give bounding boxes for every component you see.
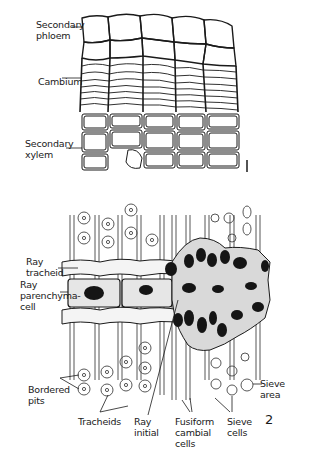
- label-cambium: Cambium: [38, 76, 82, 87]
- label-sieve-cells: Sieve cells: [227, 416, 252, 438]
- figure-2-number: 2: [265, 412, 273, 427]
- label-bordered-pits: Bordered pits: [28, 384, 70, 406]
- label-tracheids: Tracheids: [78, 416, 121, 427]
- label-secondary-phloem: Secondary phloem: [36, 19, 85, 41]
- label-secondary-xylem: Secondary xylem: [25, 138, 74, 160]
- label-ray-initial: Ray initial: [134, 416, 159, 438]
- label-ray-parenchyma-cell: Ray parenchyma- cell: [20, 279, 81, 312]
- label-sieve-area: Sieve area: [260, 378, 285, 400]
- label-fusiform-cambial-cells: Fusiform cambial cells: [175, 416, 214, 449]
- label-ray-tracheid: Ray tracheid: [26, 256, 64, 278]
